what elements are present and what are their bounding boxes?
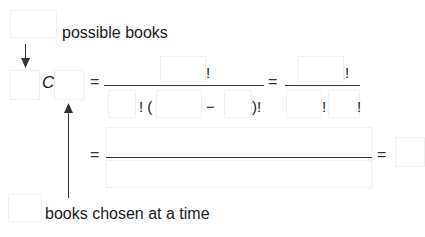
blank-answer[interactable] <box>395 137 425 167</box>
frac2-num-factorial: ! <box>345 64 349 81</box>
fraction-bar-1 <box>104 85 264 86</box>
blank-frac1-den-r[interactable] <box>108 90 136 118</box>
fraction-bar-2 <box>285 85 360 86</box>
blank-r-bottom[interactable] <box>8 194 42 222</box>
blank-frac1-num[interactable] <box>160 56 206 82</box>
combination-symbol: C <box>42 73 54 93</box>
frac1-den-open: ! ( <box>139 98 152 115</box>
arrow-down-icon <box>21 58 30 68</box>
blank-frac3-den[interactable] <box>106 160 372 188</box>
blank-frac2-num[interactable] <box>298 56 344 82</box>
frac1-den-close: )! <box>252 98 261 115</box>
equals-3: = <box>90 146 99 164</box>
frac2-den-factorial-b: ! <box>357 98 361 115</box>
arrow-up-shaft <box>68 112 69 198</box>
frac1-num-factorial: ! <box>206 64 210 81</box>
equals-1: = <box>90 73 99 91</box>
blank-frac3-num[interactable] <box>106 127 372 155</box>
equals-2: = <box>268 73 277 91</box>
label-possible-books: possible books <box>62 24 168 42</box>
blank-n[interactable] <box>10 70 40 100</box>
fraction-bar-3 <box>106 157 372 158</box>
frac1-den-minus: − <box>206 98 215 115</box>
equals-4: = <box>377 146 386 164</box>
blank-frac2-den-b[interactable] <box>328 90 360 118</box>
blank-frac1-den-n[interactable] <box>156 90 202 118</box>
frac2-den-factorial-a: ! <box>322 98 326 115</box>
blank-frac1-den-r2[interactable] <box>224 90 252 118</box>
blank-r[interactable] <box>54 70 84 100</box>
blank-n-top[interactable] <box>10 10 57 38</box>
blank-frac2-den-a[interactable] <box>286 90 322 118</box>
label-books-chosen: books chosen at a time <box>45 205 210 223</box>
